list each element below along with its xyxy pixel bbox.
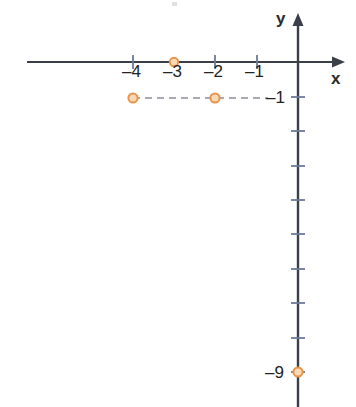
x-tick-label--1: –1 [245, 63, 264, 80]
y-tick-label--9: –9 [265, 364, 284, 381]
data-point-x-0-y--9 [293, 367, 302, 376]
x-tick-label--2: –2 [204, 63, 223, 80]
x-tick-label--4: –4 [122, 63, 141, 80]
x-axis-arrowhead [332, 57, 345, 68]
data-point-x--2-y--1 [210, 93, 219, 102]
data-point-x--4-y--1 [128, 93, 137, 102]
y-axis-label: y [276, 10, 285, 27]
y-tick-label--1: –1 [266, 89, 285, 106]
x-axis-label: x [331, 70, 340, 87]
y-axis-arrowhead [293, 13, 304, 26]
coordinate-graph-figure: y x –4 –3 –2 –1 –1 –9 [0, 0, 356, 407]
x-tick-label--3: –3 [163, 63, 182, 80]
